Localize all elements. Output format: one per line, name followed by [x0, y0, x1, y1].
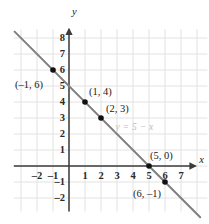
x-tick-label-4: 4	[130, 171, 135, 182]
point-label-2: (2, 3)	[106, 104, 129, 115]
graph-figure: y x y = 5 − x –2–1123456787654321–1–2(–1…	[0, 0, 209, 224]
text-layer: –2–1123456787654321–1–2(–1, 6)(1, 4)(2, …	[0, 0, 209, 224]
y-tick-label-3: 3	[60, 113, 65, 124]
point-label-0: (–1, 6)	[15, 80, 43, 91]
point-label-3: (5, 0)	[150, 151, 173, 162]
point-label-1: (1, 4)	[89, 87, 112, 98]
x-tick-label-1: 1	[82, 171, 87, 182]
point-label-4: (6, –1)	[133, 189, 161, 200]
x-tick-label-7: 7	[178, 171, 183, 182]
x-tick-label-2: 2	[98, 171, 103, 182]
y-tick-label-5: 5	[60, 81, 65, 92]
y-tick-label-4: 4	[60, 97, 65, 108]
y-tick-label-7: 7	[60, 49, 65, 60]
y-tick-label--1: –1	[55, 177, 66, 188]
x-tick-label-3: 3	[114, 171, 119, 182]
y-tick-label-2: 2	[60, 129, 65, 140]
y-tick-label--2: –2	[55, 193, 66, 204]
x-tick-label-5: 5	[146, 171, 151, 182]
y-tick-label-8: 8	[60, 33, 65, 44]
x-tick-label--2: –2	[32, 171, 43, 182]
y-tick-label-6: 6	[60, 65, 65, 76]
x-tick-label-6: 6	[162, 171, 167, 182]
y-tick-label-1: 1	[60, 145, 65, 156]
